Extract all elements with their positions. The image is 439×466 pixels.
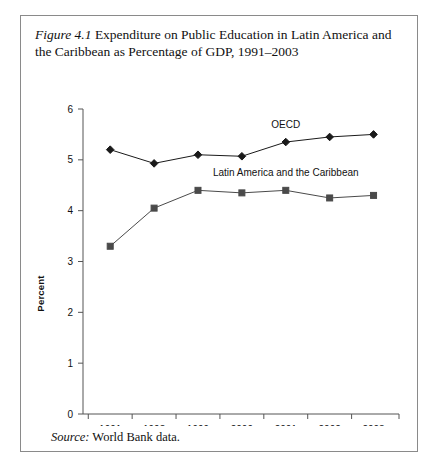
y-axis-tick-label: 5 [67, 154, 73, 165]
y-axis-tick-label: 0 [67, 409, 73, 420]
series-annotation: Latin America and the Caribbean [213, 167, 359, 178]
line-chart: 01234561991199819992000200120022003OECDL… [21, 76, 417, 426]
y-axis-tick-label: 1 [67, 358, 73, 369]
y-axis-tick-label: 3 [67, 256, 73, 267]
figure-caption: Figure 4.1 Expenditure on Public Educati… [35, 26, 407, 60]
data-point-marker [282, 138, 290, 146]
y-axis-tick-label: 6 [67, 104, 73, 115]
data-point-marker [370, 131, 378, 139]
data-point-marker [326, 133, 334, 141]
source-label: Source: [51, 430, 89, 444]
data-point-marker [283, 187, 289, 193]
data-point-marker [106, 146, 114, 154]
x-axis-tick-label: 1998 [143, 424, 166, 426]
x-axis-tick-label: 2000 [231, 424, 254, 426]
x-axis-tick-label: 2002 [319, 424, 342, 426]
data-point-marker [107, 243, 113, 249]
series-annotation: OECD [271, 119, 300, 130]
data-point-marker [150, 160, 158, 168]
x-axis-tick-label: 2003 [362, 424, 385, 426]
data-point-marker [327, 195, 333, 201]
data-point-marker [194, 151, 202, 159]
y-axis-tick-label: 4 [67, 205, 73, 216]
x-axis-tick-label: 1991 [99, 424, 122, 426]
data-point-marker [239, 190, 245, 196]
data-point-marker [238, 152, 246, 160]
y-axis-tick-label: 2 [67, 307, 73, 318]
x-axis-tick-label: 1999 [187, 424, 210, 426]
data-point-marker [151, 205, 157, 211]
figure-container: Figure 4.1 Expenditure on Public Educati… [20, 15, 418, 452]
series-line-latin-america-and-the-caribbean [110, 190, 373, 246]
figure-number: Figure 4.1 [35, 27, 92, 42]
data-point-marker [195, 187, 201, 193]
data-point-marker [371, 192, 377, 198]
x-axis-tick-label: 2001 [275, 424, 298, 426]
source-note: Source: World Bank data. [51, 430, 180, 445]
source-text: World Bank data. [92, 430, 180, 444]
chart-plot-area: Percent 01234561991199819992000200120022… [21, 76, 417, 426]
